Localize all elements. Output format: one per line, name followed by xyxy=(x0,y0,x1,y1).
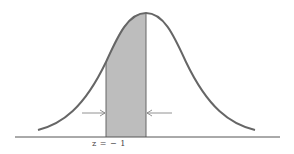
z-value-label: z = − 1 xyxy=(92,139,126,148)
shaded-area xyxy=(106,13,146,137)
normal-curve-diagram xyxy=(0,0,294,154)
left-arrow-icon xyxy=(82,110,105,116)
right-arrow-icon xyxy=(147,110,172,116)
